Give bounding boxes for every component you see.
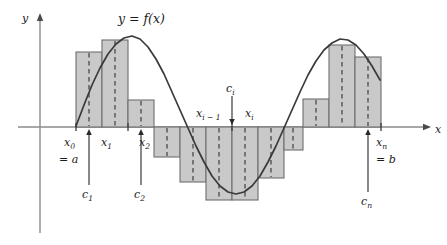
x-axis-label: x: [435, 123, 442, 136]
tick-label-xn-extra: = b: [376, 153, 396, 166]
tick-label-x1-sub: 1: [107, 142, 112, 151]
tick-label-x0-extra: = a: [59, 153, 78, 166]
tick-label-xn-sub: n: [382, 142, 387, 151]
sample-label-cn-sub: n: [367, 201, 372, 210]
tick-label-x0-sub: 0: [70, 142, 75, 151]
curve-equation-label: y = f(x): [117, 11, 165, 26]
tick-label-xi-minus-1-sub: i − 1: [202, 113, 220, 122]
riemann-sum-figure: y x y = f(x) x0 = a x1 x2 xi − 1 xi: [0, 0, 447, 245]
sample-label-c1-sub: 1: [88, 194, 93, 203]
figure-canvas: y x y = f(x) x0 = a x1 x2 xi − 1 xi: [0, 0, 447, 245]
y-axis-label: y: [21, 12, 29, 25]
sample-label-c2-sub: 2: [139, 194, 145, 203]
tick-label-x2-sub: 2: [144, 142, 150, 151]
